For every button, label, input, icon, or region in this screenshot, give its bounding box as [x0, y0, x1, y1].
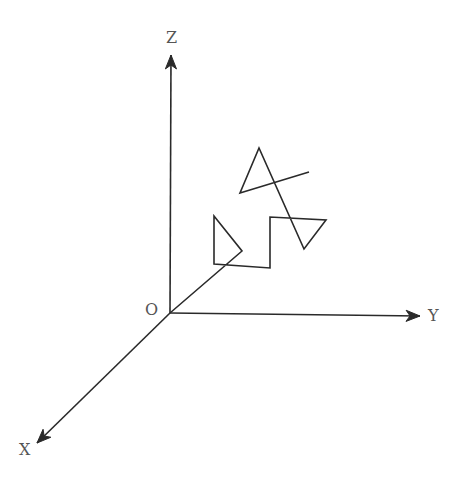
y-axis-label: Y — [428, 308, 439, 324]
z-axis-line — [170, 55, 171, 313]
y-axis-line — [170, 313, 420, 316]
diagram-canvas — [0, 0, 463, 489]
z-axis-label: Z — [166, 30, 177, 46]
x-axis-label: X — [19, 442, 30, 458]
origin-label: O — [145, 302, 158, 318]
curve-path — [170, 148, 326, 313]
axes — [37, 55, 420, 443]
x-axis-line — [37, 313, 170, 443]
